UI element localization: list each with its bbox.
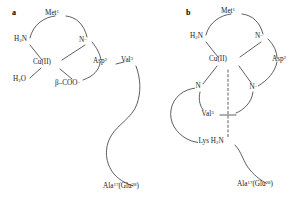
bond-b-met1-namide <box>242 14 263 34</box>
bond-a-cu-h2o <box>30 68 41 78</box>
label-a-h2n: H2N <box>14 36 27 43</box>
label-b-val3: Val3 <box>201 110 214 118</box>
chain-b-lys-to-ala17 <box>235 145 266 183</box>
chain-a-val3-to-ala17 <box>106 66 139 186</box>
label-b-ala17-glu28: Ala17(Glu28) <box>237 180 273 188</box>
bond-b-h2n-met1 <box>206 14 231 35</box>
bond-a-coo-asp2 <box>83 63 100 80</box>
label-b-lys-amine: Lys H2N <box>198 138 224 145</box>
label-a-beta-carboxylate: β–COO– <box>55 79 80 87</box>
bond-a-namide-cu <box>62 45 85 60</box>
bond-b-nright-val3 <box>236 92 253 113</box>
label-a-met1: Met1 <box>45 9 59 17</box>
label-a-asp2: Asp2 <box>93 57 107 65</box>
label-b-copper-center: Cu(II) <box>209 56 227 63</box>
bond-b-cu-nright <box>239 66 252 84</box>
label-a-copper-center: Cu(II) <box>33 59 51 66</box>
bond-b-cu-nleft <box>203 66 217 84</box>
label-a-val3: Val3 <box>121 56 133 64</box>
label-b-nitrogen-left: N <box>195 83 201 90</box>
label-a-amide-nitrogen: N– <box>79 36 87 44</box>
bond-a-met1-namide <box>66 16 87 37</box>
bond-b-nright-asp2 <box>258 62 277 86</box>
label-b-amide-nitrogen-top: N– <box>255 32 263 40</box>
label-b-h2n: H2N <box>190 33 203 40</box>
bond-a-h2n-met1 <box>30 16 55 38</box>
panel-label-b: b <box>186 8 190 17</box>
bond-b-namide-cu <box>240 42 261 57</box>
chain-b-nleft-to-lys <box>171 88 205 143</box>
label-a-water-ligand: H2O <box>13 76 26 83</box>
label-b-asp2: Asp2 <box>272 55 286 63</box>
bond-a-cu-coo <box>60 69 72 79</box>
figure-canvas: a Met1 H2N N– Cu(II) H2O β–COO– Asp2 Val… <box>0 0 302 203</box>
panel-label-a: a <box>12 8 16 17</box>
structure-line-art <box>0 0 302 203</box>
label-b-nitrogen-right: N– <box>249 83 258 91</box>
label-a-ala17-glu28: Ala17(Glu28) <box>103 182 139 190</box>
label-b-met1: Met1 <box>221 7 235 15</box>
